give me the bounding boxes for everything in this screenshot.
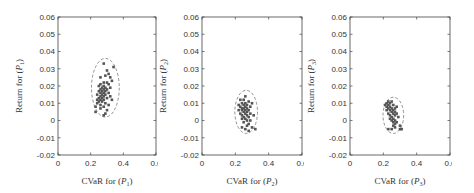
x-tick-label: 0	[348, 159, 353, 168]
x-axis-label: CVaR for (P2)	[227, 176, 278, 187]
y-tick-label: 0.01	[183, 99, 199, 108]
y-tick-label: 0.02	[39, 82, 55, 91]
x-tick-label: 0.2	[230, 159, 242, 168]
y-axis-label: Return for (P2)	[158, 59, 169, 113]
x-tick-label: 0	[200, 159, 205, 168]
x-tick-label: 0.2	[378, 159, 390, 168]
y-tick-label: 0	[51, 116, 56, 125]
y-tick-label: 0.04	[183, 47, 199, 56]
y-tick-label: 0.06	[331, 13, 347, 22]
y-tick-label: -0.02	[181, 151, 200, 160]
plot-area	[58, 17, 156, 155]
scatter-plot-p1: 0.060.050.040.030.020.010-0.01-0.0200.20…	[0, 0, 158, 193]
scatter-plot-p2: 0.060.050.040.030.020.010-0.01-0.0200.20…	[146, 0, 304, 193]
y-tick-label: 0.05	[331, 30, 347, 39]
x-tick-label: 0.2	[85, 159, 97, 168]
y-tick-label: 0.01	[39, 99, 55, 108]
y-tick-label: 0.04	[331, 47, 347, 56]
y-tick-label: -0.02	[37, 151, 56, 160]
x-tick-label: 0.4	[263, 159, 275, 168]
y-tick-label: -0.02	[329, 151, 348, 160]
x-tick-label: 0	[56, 159, 61, 168]
data-points	[384, 100, 403, 130]
data-points	[237, 95, 256, 132]
x-tick-label: 0.6	[444, 159, 452, 168]
x-axis-label: CVaR for (P3)	[375, 176, 426, 187]
y-axis-label: Return for (P3)	[306, 59, 317, 113]
y-axis-label: Return for (P1)	[14, 59, 25, 113]
y-tick-label: 0	[195, 116, 200, 125]
x-tick-label: 0.4	[411, 159, 423, 168]
x-tick-label: 0.4	[118, 159, 130, 168]
y-tick-label: -0.01	[329, 134, 348, 143]
plot-area	[350, 17, 450, 155]
y-tick-label: -0.01	[37, 134, 56, 143]
plot-area	[202, 17, 302, 155]
y-tick-label: 0.01	[331, 99, 347, 108]
y-tick-label: 0.05	[39, 30, 55, 39]
y-tick-label: 0.03	[183, 65, 199, 74]
data-points	[94, 62, 115, 116]
y-tick-label: 0.02	[331, 82, 347, 91]
y-tick-label: -0.01	[181, 134, 200, 143]
y-tick-label: 0.06	[39, 13, 55, 22]
y-tick-label: 0	[343, 116, 348, 125]
y-tick-label: 0.06	[183, 13, 199, 22]
y-tick-label: 0.03	[39, 65, 55, 74]
scatter-plot-p3: 0.060.050.040.030.020.010-0.01-0.0200.20…	[294, 0, 452, 193]
y-tick-label: 0.03	[331, 65, 347, 74]
y-tick-label: 0.04	[39, 47, 55, 56]
y-tick-label: 0.02	[183, 82, 199, 91]
y-tick-label: 0.05	[183, 30, 199, 39]
x-axis-label: CVaR for (P1)	[82, 176, 133, 187]
